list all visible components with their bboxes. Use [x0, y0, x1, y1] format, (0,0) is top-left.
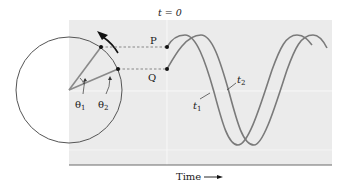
time-arrow-icon: [217, 175, 223, 179]
point-q-label: Q: [148, 72, 156, 83]
wave-point-q: [165, 67, 169, 71]
time-axis-label: Time: [176, 171, 201, 182]
circle-point-p: [99, 45, 103, 49]
circle-left-fill: [16, 37, 69, 143]
circle-point-q: [116, 67, 120, 71]
wave-point-p: [165, 45, 169, 49]
phasor-diagram: θ1 θ2 P Q t = 0 t1 t2 Time: [0, 0, 345, 185]
point-p-label: P: [150, 35, 157, 46]
t0-label: t = 0: [158, 7, 182, 18]
